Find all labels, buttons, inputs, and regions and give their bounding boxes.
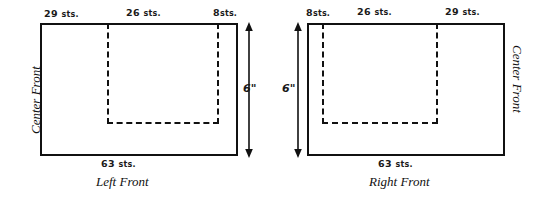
top-label-26-sts-left: 26 sts.	[126, 7, 161, 18]
panel-caption-left-front: Left Front	[96, 174, 149, 190]
top-label-29-sts-left: 29 sts.	[44, 8, 79, 19]
top-label-29-unit-right: sts.	[462, 8, 479, 17]
top-label-8-sts-left: 8sts.	[213, 7, 237, 18]
top-label-8-sts-right: 8sts.	[306, 7, 330, 18]
bottom-label-63-number: 63	[101, 158, 115, 169]
top-label-29-number-right: 29	[445, 6, 459, 17]
top-label-26-unit: sts.	[143, 9, 160, 18]
dashed-inset-right	[322, 23, 438, 124]
top-label-29-sts-right: 29 sts.	[445, 6, 480, 17]
bottom-label-63-unit: sts.	[118, 160, 135, 169]
height-dimension-label-right: 6"	[282, 82, 295, 95]
bottom-label-63-unit-right: sts.	[395, 160, 412, 169]
top-label-26-number: 26	[126, 7, 140, 18]
top-label-8-unit-right: sts.	[313, 9, 330, 18]
height-dimension-label-left: 6"	[243, 82, 256, 95]
top-label-8-unit: sts.	[220, 9, 237, 18]
dashed-inset-left	[107, 23, 219, 124]
center-front-label-right: Center Front	[509, 45, 525, 113]
bottom-label-63-sts-left: 63 sts.	[101, 158, 136, 169]
top-label-29-number: 29	[44, 8, 58, 19]
bottom-label-63-sts-right: 63 sts.	[378, 158, 413, 169]
top-label-8-number-right: 8	[306, 7, 313, 18]
top-label-26-number-right: 26	[357, 6, 371, 17]
top-label-26-unit-right: sts.	[374, 8, 391, 17]
top-label-29-unit: sts.	[61, 10, 78, 19]
panel-caption-right-front: Right Front	[369, 174, 430, 190]
top-label-8-number: 8	[213, 7, 220, 18]
center-front-label-left: Center Front	[28, 66, 44, 134]
bottom-label-63-number-right: 63	[378, 158, 392, 169]
top-label-26-sts-right: 26 sts.	[357, 6, 392, 17]
diagram-canvas: 29 sts. 26 sts. 8sts. 63 sts. Center Fro…	[0, 0, 558, 201]
panel-right-front: 8sts. 26 sts. 29 sts. 63 sts. Center Fro…	[279, 0, 558, 201]
panel-left-front: 29 sts. 26 sts. 8sts. 63 sts. Center Fro…	[0, 0, 279, 201]
